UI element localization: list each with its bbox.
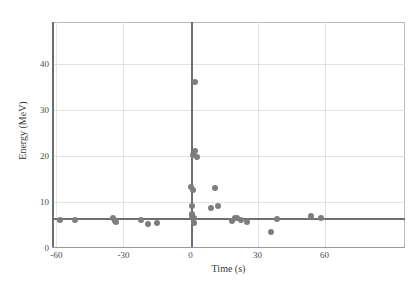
x-tick-label: -30 (117, 250, 129, 260)
data-point (72, 217, 78, 223)
x-tick-label: -60 (50, 250, 62, 260)
data-point (244, 219, 250, 225)
data-point (308, 213, 314, 219)
plot-frame-right (404, 22, 405, 248)
x-tick-label: 60 (320, 250, 329, 260)
data-point (190, 187, 196, 193)
gridline-horizontal (52, 64, 405, 65)
x-axis-title: Time (s) (52, 263, 405, 274)
data-point (113, 219, 119, 225)
data-point (189, 203, 195, 209)
data-point (138, 217, 144, 223)
y-tick-label: 20 (40, 151, 49, 161)
x-tick-label: 30 (253, 250, 262, 260)
y-tick-label: 40 (40, 59, 49, 69)
y-tick-label: 10 (40, 197, 49, 207)
gridline-vertical (258, 22, 259, 248)
y-tick-label: 0 (45, 243, 50, 253)
y-axis-title: Energy (MeV) (17, 61, 28, 201)
gridline-vertical (56, 22, 57, 248)
y-axis-tick-labels: 010203040 (28, 22, 49, 248)
data-point (238, 217, 244, 223)
y-axis-line (52, 22, 54, 248)
data-point (208, 205, 214, 211)
data-point (215, 203, 221, 209)
data-point (154, 220, 160, 226)
data-point (145, 221, 151, 227)
scatter-plot-figure: 010203040 -60-3003060 Time (s) Energy (M… (0, 0, 417, 283)
data-point (57, 217, 63, 223)
gridline-vertical (325, 22, 326, 248)
data-point (274, 216, 280, 222)
x-axis-line (52, 247, 405, 248)
plot-frame-top (52, 22, 405, 23)
data-point (191, 220, 197, 226)
data-point (194, 154, 200, 160)
data-point (318, 215, 324, 221)
x-axis-tick-labels: -60-3003060 (52, 250, 405, 262)
gridline-horizontal (52, 202, 405, 203)
data-point (192, 79, 198, 85)
gridline-horizontal (52, 156, 405, 157)
x-tick-label: 0 (188, 250, 193, 260)
data-point (268, 229, 274, 235)
y-tick-label: 30 (40, 105, 49, 115)
gridline-vertical (123, 22, 124, 248)
plot-area (52, 22, 405, 248)
data-point (212, 185, 218, 191)
gridline-horizontal (52, 110, 405, 111)
